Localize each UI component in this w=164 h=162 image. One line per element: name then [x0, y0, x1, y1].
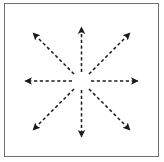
diagram-outer-border [4, 3, 159, 157]
cell-offset-diagram: ( 1, –1 ) ( 1, 0 ) ( 1, 1 ) ( 0, –1 ) Ce… [0, 0, 164, 162]
